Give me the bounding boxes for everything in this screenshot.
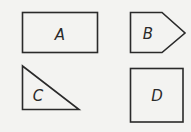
shapes-diagram: A B C D bbox=[0, 0, 191, 132]
shape-c-label: C bbox=[33, 87, 44, 105]
shape-a: A bbox=[23, 13, 98, 53]
shape-a-label: A bbox=[54, 26, 65, 44]
shape-b-label: B bbox=[143, 25, 153, 43]
triangle-shape bbox=[23, 66, 80, 110]
pentagon-shape bbox=[131, 13, 186, 53]
diagram-svg: A B C D bbox=[0, 0, 191, 132]
shape-c: C bbox=[23, 66, 80, 110]
shape-b: B bbox=[131, 13, 186, 53]
shape-d-label: D bbox=[151, 87, 163, 105]
shape-d: D bbox=[131, 69, 184, 123]
